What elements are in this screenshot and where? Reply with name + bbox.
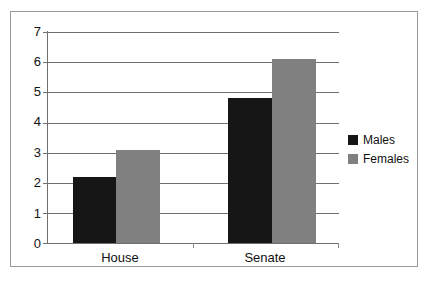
legend-swatch-icon-males [348,135,358,145]
legend-item-males: Males [348,131,410,149]
chart-legend: Males Females [348,131,410,169]
gridline-7 [47,32,339,33]
y-tick-label-3: 3 [15,146,41,159]
bar-senate-females [272,59,316,243]
x-axis-label-house: House [70,251,170,265]
y-tick-label-2: 2 [15,176,41,189]
y-tick-label-6: 6 [15,55,41,68]
legend-label-females: Females [363,153,409,165]
bar-senate-males [228,98,272,243]
x-axis-label-senate: Senate [215,251,315,265]
legend-item-females: Females [348,150,410,168]
bar-house-males [73,177,116,243]
plot-area [47,32,339,243]
x-tick-mark-separator [193,243,194,248]
x-tick-mark-end [338,243,339,248]
legend-label-males: Males [363,134,395,146]
y-tick-label-4: 4 [15,115,41,128]
y-tick-label-5: 5 [15,85,41,98]
bar-house-females [116,150,160,243]
y-tick-label-0: 0 [15,237,41,250]
legend-swatch-icon-females [348,154,358,164]
y-tick-label-7: 7 [15,25,41,38]
bar-chart: 7 6 5 4 3 2 1 0 House Senate [0,0,430,285]
y-axis-tick-labels: 7 6 5 4 3 2 1 0 [11,0,41,256]
y-tick-label-1: 1 [15,207,41,220]
